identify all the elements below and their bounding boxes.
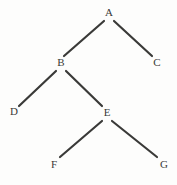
tree-node-e: E	[104, 107, 111, 118]
tree-edge-a-c	[114, 21, 152, 56]
tree-edge-a-b	[64, 21, 104, 56]
tree-edges-layer	[0, 0, 177, 185]
tree-node-a: A	[105, 7, 113, 18]
tree-edge-e-g	[112, 121, 157, 157]
tree-diagram: ABCDEFG	[0, 0, 177, 185]
edges-group	[19, 21, 157, 157]
tree-node-g: G	[160, 159, 168, 170]
tree-node-f: F	[51, 159, 57, 170]
tree-node-c: C	[153, 57, 160, 68]
tree-edge-b-e	[66, 71, 102, 106]
tree-node-b: B	[57, 57, 64, 68]
tree-node-d: D	[10, 106, 18, 117]
tree-edge-e-f	[60, 121, 102, 157]
tree-edge-b-d	[19, 71, 56, 106]
